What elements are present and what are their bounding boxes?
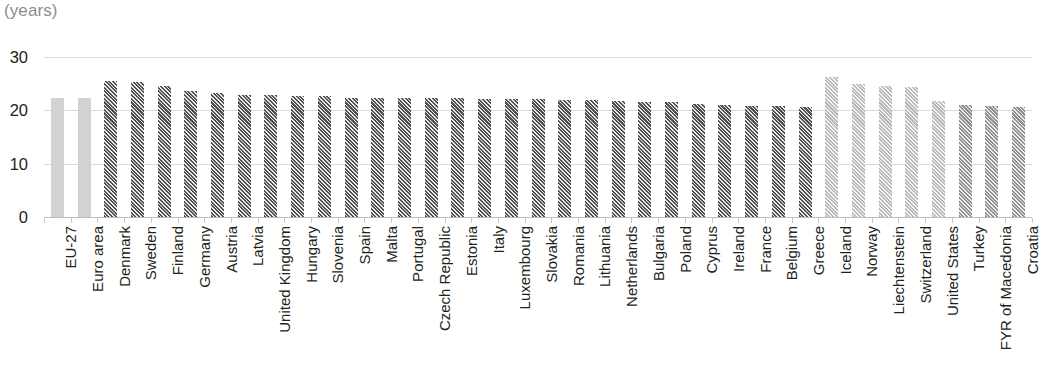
- x-axis-label-text: Ireland: [731, 226, 746, 272]
- x-axis-label: Cyprus: [704, 226, 719, 274]
- x-axis-label: Belgium: [784, 226, 799, 280]
- x-tick-mark: [658, 218, 659, 223]
- x-tick-mark: [872, 218, 873, 223]
- x-axis-label: Poland: [678, 226, 693, 273]
- x-axis-label-text: Liechtenstein: [891, 226, 906, 314]
- bar: [612, 101, 625, 217]
- x-axis-label-text: Finland: [170, 226, 185, 275]
- x-axis-label-text: Iceland: [838, 226, 853, 274]
- bar: [238, 95, 251, 217]
- x-axis-label: Austria: [224, 226, 239, 273]
- x-axis-label-text: Cyprus: [704, 226, 719, 274]
- y-axis-unit-label: (years): [4, 1, 58, 21]
- bar: [318, 96, 331, 217]
- y-tick-label-10: 10: [0, 156, 28, 173]
- x-tick-mark: [551, 218, 552, 223]
- bar: [131, 82, 144, 217]
- x-axis-label: Netherlands: [624, 226, 639, 307]
- bar: [78, 98, 91, 217]
- x-axis-labels: EU-27Euro areaDenmarkSwedenFinlandGerman…: [44, 226, 1032, 374]
- bar: [184, 91, 197, 217]
- bar: [585, 100, 598, 217]
- bar: [158, 86, 171, 217]
- bar: [692, 104, 705, 217]
- x-axis-label-text: Bulgaria: [651, 226, 666, 281]
- x-axis-label: FYR of Macedonia: [998, 226, 1013, 350]
- x-tick-mark: [765, 218, 766, 223]
- x-tick-mark: [204, 218, 205, 223]
- x-axis-label-text: Slovakia: [544, 226, 559, 283]
- bar: [211, 93, 224, 217]
- bar: [104, 81, 117, 217]
- x-tick-mark: [1005, 218, 1006, 223]
- bar: [371, 98, 384, 217]
- x-axis-label: Germany: [197, 226, 212, 288]
- x-axis-label: Spain: [357, 226, 372, 264]
- x-axis-label-text: Romania: [571, 226, 586, 286]
- x-axis-label-text: Belgium: [784, 226, 799, 280]
- x-axis-label-text: Netherlands: [624, 226, 639, 307]
- x-tick-mark: [445, 218, 446, 223]
- x-axis-label: Czech Republic: [437, 226, 452, 331]
- x-axis-label-text: Estonia: [464, 226, 479, 276]
- x-tick-mark: [231, 218, 232, 223]
- x-tick-mark: [818, 218, 819, 223]
- x-axis-label-text: Poland: [678, 226, 693, 273]
- bar: [852, 84, 865, 217]
- x-tick-mark: [1032, 218, 1033, 223]
- x-axis-label: United States: [945, 226, 960, 316]
- x-axis-label-text: United Kingdom: [277, 226, 292, 333]
- bar: [451, 98, 464, 217]
- x-tick-mark: [311, 218, 312, 223]
- x-tick-mark: [898, 218, 899, 223]
- bar: [799, 107, 812, 217]
- bar: [772, 106, 785, 217]
- y-tick-label-20: 20: [0, 102, 28, 119]
- x-tick-mark: [685, 218, 686, 223]
- bar: [638, 102, 651, 217]
- x-axis-label: Euro area: [90, 226, 105, 292]
- x-tick-mark: [525, 218, 526, 223]
- x-tick-mark: [71, 218, 72, 223]
- x-axis-label-text: Euro area: [90, 226, 105, 292]
- bar: [532, 99, 545, 217]
- x-axis-label: Croatia: [1025, 226, 1040, 274]
- x-axis-label-text: United States: [945, 226, 960, 316]
- x-axis-label: Norway: [864, 226, 879, 277]
- x-axis-label: Finland: [170, 226, 185, 275]
- x-tick-mark: [258, 218, 259, 223]
- x-tick-mark: [284, 218, 285, 223]
- x-tick-mark: [952, 218, 953, 223]
- x-axis-line: [44, 217, 1032, 218]
- y-tick-label-0: 0: [0, 209, 28, 226]
- x-tick-mark: [605, 218, 606, 223]
- bar: [478, 99, 491, 217]
- x-axis-label-text: Czech Republic: [437, 226, 452, 331]
- x-axis-label: Romania: [571, 226, 586, 286]
- bar: [825, 77, 838, 217]
- x-tick-mark: [364, 218, 365, 223]
- x-axis-label-text: Turkey: [971, 226, 986, 271]
- x-axis-label: Italy: [491, 226, 506, 254]
- x-tick-mark: [151, 218, 152, 223]
- x-axis-label-text: Spain: [357, 226, 372, 264]
- x-axis-label: Sweden: [143, 226, 158, 280]
- bar: [398, 98, 411, 217]
- x-axis-label-text: FYR of Macedonia: [998, 226, 1013, 350]
- bar: [505, 99, 518, 217]
- bar-series: [44, 57, 1032, 217]
- x-axis-label: Liechtenstein: [891, 226, 906, 314]
- x-tick-mark: [792, 218, 793, 223]
- x-axis-label-text: Sweden: [143, 226, 158, 280]
- x-axis-label: Portugal: [410, 226, 425, 282]
- x-axis-label: Iceland: [838, 226, 853, 274]
- x-axis-label: United Kingdom: [277, 226, 292, 333]
- x-axis-label: Hungary: [304, 226, 319, 283]
- x-tick-mark: [498, 218, 499, 223]
- x-tick-mark: [44, 218, 45, 223]
- bar: [665, 102, 678, 217]
- x-axis-label-text: Lithuania: [597, 226, 612, 287]
- x-tick-mark: [178, 218, 179, 223]
- x-axis-label: Luxembourg: [517, 226, 532, 309]
- x-axis-label-text: Portugal: [410, 226, 425, 282]
